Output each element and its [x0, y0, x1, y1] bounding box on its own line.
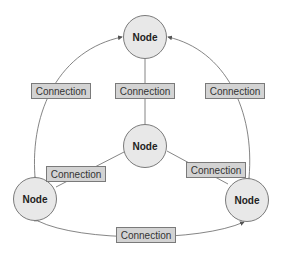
connection-label-center: Connection — [115, 83, 175, 99]
connection-label-bottom: Connection — [116, 227, 176, 243]
node-label: Node — [23, 194, 48, 205]
label-text: Connection — [51, 169, 102, 180]
node-bottom-right: Node — [225, 178, 269, 222]
connection-label-center-right: Connection — [186, 162, 246, 178]
connection-label-center-left: Connection — [46, 166, 106, 182]
node-center: Node — [123, 124, 167, 168]
node-label: Node — [133, 32, 158, 43]
label-text: Connection — [121, 230, 172, 241]
label-text: Connection — [36, 86, 87, 97]
label-text: Connection — [120, 86, 171, 97]
node-bottom-left: Node — [13, 177, 57, 221]
connection-right-arc — [168, 37, 250, 178]
node-label: Node — [235, 195, 260, 206]
node-label: Node — [133, 141, 158, 152]
node-top: Node — [123, 15, 167, 59]
label-text: Connection — [210, 86, 261, 97]
label-text: Connection — [191, 165, 242, 176]
connection-label-left: Connection — [31, 83, 91, 99]
connection-label-right: Connection — [205, 83, 265, 99]
connection-left-arc — [34, 37, 122, 177]
